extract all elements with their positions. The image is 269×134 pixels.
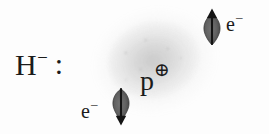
- electron-charge-superscript-bottom: –: [91, 96, 98, 111]
- hydride-charge-superscript: –: [38, 46, 47, 65]
- spin-up-arrow-icon: [201, 8, 223, 48]
- hydride-symbol: H: [15, 48, 37, 81]
- proton-symbol: p: [140, 65, 154, 96]
- proton-charge-superscript: ⊕: [154, 59, 170, 80]
- electron-symbol-top: e: [226, 13, 235, 35]
- lone-pair-colon: :: [55, 47, 63, 80]
- hydride-ion-diagram: H–: p⊕ e– e–: [0, 0, 269, 134]
- electron-label-top: e–: [226, 12, 241, 34]
- electron-label-bottom: e–: [81, 99, 96, 121]
- electron-symbol-bottom: e: [81, 100, 90, 122]
- proton-label: p⊕: [140, 64, 170, 95]
- electron-charge-superscript-top: –: [236, 9, 243, 24]
- spin-down-arrow-icon: [110, 86, 132, 126]
- hydride-label: H–:: [15, 50, 63, 80]
